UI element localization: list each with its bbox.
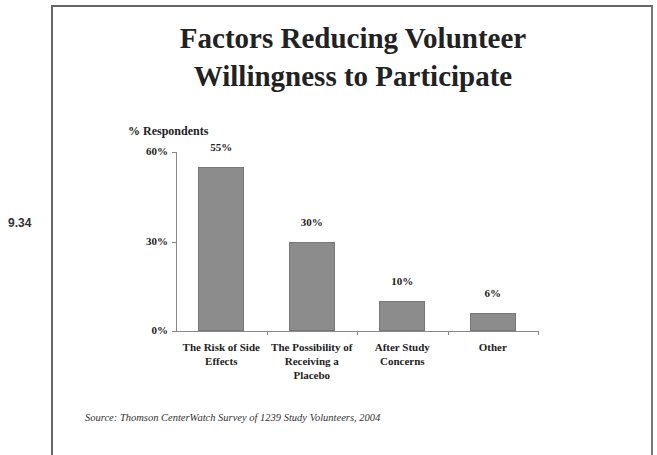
y-tick-label: 0% — [128, 324, 168, 336]
value-label: 6% — [463, 287, 523, 299]
x-tick — [448, 331, 449, 335]
y-tick — [172, 331, 176, 332]
category-label-line: Placebo — [264, 368, 360, 382]
bar-4 — [470, 313, 516, 331]
bar-1 — [198, 167, 244, 331]
y-tick-label: 60% — [128, 145, 168, 157]
x-tick — [538, 331, 539, 335]
value-label: 10% — [372, 275, 432, 287]
chart-title-line-1: Factors Reducing Volunteer — [51, 19, 655, 57]
x-axis — [172, 331, 538, 332]
x-tick — [357, 331, 358, 335]
x-tick — [267, 331, 268, 335]
y-tick — [172, 242, 176, 243]
y-tick-label: 30% — [128, 235, 168, 247]
slide-number: 9.34 — [8, 216, 31, 230]
category-label: After StudyConcerns — [354, 340, 450, 368]
category-label-line: After Study — [354, 340, 450, 354]
category-label-line: Receiving a — [264, 354, 360, 368]
category-label-line: Concerns — [354, 354, 450, 368]
category-label: The Risk of SideEffects — [173, 340, 269, 368]
bar-3 — [379, 301, 425, 331]
source-note: Source: Thomson CenterWatch Survey of 12… — [85, 412, 380, 423]
value-label: 55% — [191, 141, 251, 153]
y-axis — [176, 152, 177, 332]
y-axis-label: % Respondents — [128, 124, 208, 139]
category-label-line: The Risk of Side — [173, 340, 269, 354]
y-tick — [172, 152, 176, 153]
chart-title: Factors Reducing Volunteer Willingness t… — [51, 19, 655, 95]
category-label-line: Effects — [173, 354, 269, 368]
category-label-line: Other — [445, 340, 541, 354]
value-label: 30% — [282, 216, 342, 228]
category-label-line: The Possibility of — [264, 340, 360, 354]
category-label: The Possibility ofReceiving aPlacebo — [264, 340, 360, 382]
bar-2 — [289, 242, 335, 332]
category-label: Other — [445, 340, 541, 354]
chart-title-line-2: Willingness to Participate — [51, 57, 655, 95]
